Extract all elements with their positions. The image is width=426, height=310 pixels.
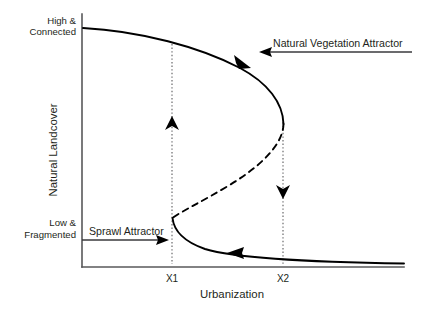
bifurcation-diagram: Natural Vegetation Attractor Sprawl Attr…: [0, 0, 426, 310]
y-low-label-line2: Fragmented: [24, 229, 76, 240]
natural-vegetation-attractor-label: Natural Vegetation Attractor: [273, 37, 403, 49]
x-tick-label-x1: X1: [166, 273, 179, 284]
lower-stable-branch: [173, 218, 405, 264]
y-axis-title: Natural Landcover: [47, 103, 59, 196]
sprawl-attractor-label: Sprawl Attractor: [89, 225, 164, 237]
x-axis-title: Urbanization: [200, 288, 264, 300]
annotation-sprawl-attractor: Sprawl Attractor: [82, 225, 169, 245]
flow-arrowheads: [165, 55, 290, 259]
lower-branch-flow-arrow-icon: [227, 247, 244, 259]
y-axis-title-group: Natural Landcover: [47, 103, 59, 196]
y-high-label-line2: Connected: [30, 26, 76, 37]
x-tick-label-x2: X2: [277, 273, 290, 284]
diagram-canvas: Natural Vegetation Attractor Sprawl Attr…: [0, 0, 426, 310]
upper-stable-branch: [83, 28, 284, 124]
x-axis-tick-labels: X1 X2: [166, 273, 290, 284]
threshold-guides: [172, 44, 283, 264]
y-low-label-line1: Low &: [49, 217, 76, 228]
annotation-natural-vegetation-attractor: Natural Vegetation Attractor: [259, 37, 412, 57]
y-high-label-line1: High &: [47, 15, 76, 26]
unstable-branch: [173, 124, 284, 218]
